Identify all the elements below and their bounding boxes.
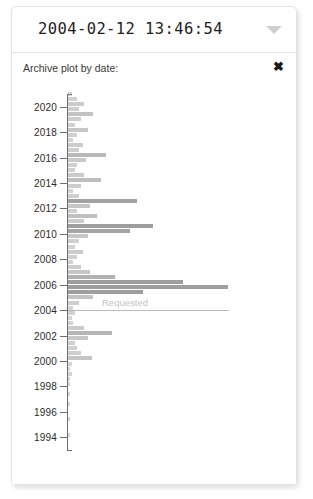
chart-bar [68, 189, 73, 193]
chart-bar [68, 285, 228, 289]
y-axis-tick [60, 107, 68, 108]
archive-date-picker-app: 2004-02-12 13:46:54 Archive plot by date… [0, 0, 313, 499]
chart-bar [68, 260, 73, 264]
chart-bar [68, 148, 79, 152]
y-axis-tick-label: 2016 [34, 152, 57, 163]
chart-bar [68, 295, 93, 299]
chart-bar [68, 275, 115, 279]
y-axis-tick-label: 2008 [34, 254, 57, 265]
chart-bar [68, 112, 93, 116]
close-icon[interactable]: ✖ [270, 59, 286, 75]
y-axis-tick [60, 259, 68, 260]
chart-bar [68, 331, 112, 335]
plot-title: Archive plot by date: [23, 62, 118, 74]
chart-bar [68, 153, 106, 157]
chart-bar [68, 417, 70, 421]
y-axis-tick-label: 2010 [34, 228, 57, 239]
y-axis-tick-label: 2020 [34, 101, 57, 112]
y-axis-tick [60, 183, 68, 184]
y-axis-tick [60, 285, 68, 286]
y-axis-tick-label: 2014 [34, 178, 57, 189]
y-axis-tick-label: 2000 [34, 356, 57, 367]
y-axis-tick [60, 336, 68, 337]
chart-bar [68, 128, 88, 132]
chart-bar [68, 168, 75, 172]
chart-bar [68, 178, 101, 182]
y-axis-tick [60, 310, 68, 311]
y-axis-tick [60, 234, 68, 235]
chart-bar [68, 102, 84, 106]
requested-reference-line [68, 310, 229, 311]
y-axis-tick-label: 1994 [34, 432, 57, 443]
chart-bar [68, 402, 70, 406]
y-axis-tick-label: 2006 [34, 279, 57, 290]
chart-bar [68, 173, 84, 177]
chart-bar [68, 372, 72, 376]
chart-bar [68, 239, 79, 243]
chart-bar [68, 214, 97, 218]
y-axis-bottom-cap [67, 450, 72, 451]
chevron-down-icon[interactable] [266, 26, 282, 34]
chart-bar [68, 367, 70, 371]
chart-bar [68, 199, 137, 203]
chart-bar [68, 138, 73, 142]
chart-bar [68, 290, 143, 294]
y-axis-tick-label: 2012 [34, 203, 57, 214]
chart-bar [68, 351, 81, 355]
chart-bar [68, 219, 84, 223]
y-axis-tick [60, 208, 68, 209]
y-axis-tick [60, 158, 68, 159]
y-axis-tick [60, 132, 68, 133]
chart-bar [68, 280, 183, 284]
chart-bar [68, 321, 73, 325]
chart-bar [68, 392, 70, 396]
chart-bar [68, 123, 75, 127]
chart-bar [68, 184, 81, 188]
y-axis-tick-label: 2018 [34, 127, 57, 138]
chart-bar [68, 143, 83, 147]
chart-bar [68, 316, 72, 320]
y-axis-tick [60, 361, 68, 362]
chart-bar [68, 250, 83, 254]
chart-bar [68, 92, 72, 96]
chart-bar [68, 382, 70, 386]
chart-bar [68, 224, 153, 228]
chart-bar [68, 341, 75, 345]
plot-area: 2020201820162014201220102008200620042002… [12, 84, 296, 484]
chart-bar [68, 158, 86, 162]
chart-bar [68, 117, 81, 121]
chart-bar [68, 356, 92, 360]
chart-bar [68, 270, 90, 274]
archive-histogram-chart: 2020201820162014201220102008200620042002… [12, 84, 296, 484]
chart-bar [68, 194, 79, 198]
chart-bar [68, 336, 88, 340]
y-axis-tick-label: 1996 [34, 406, 57, 417]
chart-bar [68, 245, 75, 249]
chart-bar [68, 97, 77, 101]
y-axis-tick [60, 437, 68, 438]
chart-bar [68, 311, 75, 315]
chart-bar [68, 306, 73, 310]
chart-bar [68, 107, 79, 111]
plot-header: Archive plot by date: ✖ [12, 53, 296, 84]
date-input-value[interactable]: 2004-02-12 13:46:54 [38, 20, 223, 38]
y-axis-tick-label: 2002 [34, 330, 57, 341]
y-axis-tick-label: 1998 [34, 381, 57, 392]
date-input-field[interactable]: 2004-02-12 13:46:54 [12, 7, 296, 53]
chart-bar [68, 346, 77, 350]
y-axis-tick [60, 412, 68, 413]
chart-bar [68, 133, 77, 137]
chart-bar [68, 265, 81, 269]
chart-bar [68, 163, 77, 167]
y-axis-tick-label: 2004 [34, 305, 57, 316]
chart-bar [68, 204, 90, 208]
chart-bar [68, 326, 84, 330]
chart-bar [68, 362, 72, 366]
chart-bar [68, 301, 79, 305]
chart-bar [68, 209, 77, 213]
chart-bar [68, 255, 77, 259]
chart-bar [68, 433, 70, 437]
archive-panel-card: 2004-02-12 13:46:54 Archive plot by date… [11, 6, 297, 485]
chart-bar [68, 377, 70, 381]
y-axis-tick [60, 386, 68, 387]
